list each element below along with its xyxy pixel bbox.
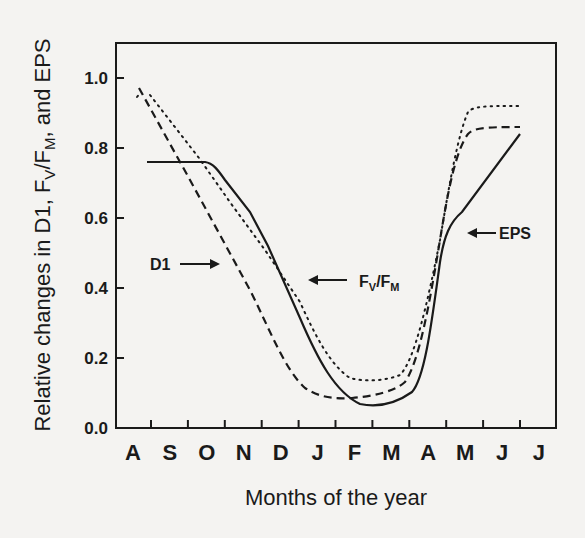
annotation-eps-label: EPS: [499, 225, 531, 242]
x-tick-label: J: [496, 440, 508, 465]
x-axis-title: Months of the year: [245, 485, 427, 510]
x-tick-label: N: [236, 440, 252, 465]
annotation-d1-label: D1: [150, 256, 171, 273]
x-tick-label: F: [348, 440, 361, 465]
y-axis: 0.00.20.40.60.81.0: [84, 69, 124, 438]
y-tick-label: 1.0: [84, 69, 108, 88]
x-axis: ASONDJFMAMJJ: [125, 420, 545, 465]
x-tick-label: D: [273, 440, 289, 465]
x-tick-label: O: [198, 440, 215, 465]
x-tick-label: A: [420, 440, 436, 465]
annotation-eps: EPS: [467, 225, 531, 242]
annotation-fvfm: FV/FM: [308, 273, 400, 293]
arrowhead-right-icon: [210, 259, 220, 269]
x-tick-label: M: [382, 440, 400, 465]
series-fvfm-line: [150, 95, 520, 380]
y-tick-label: 0.2: [84, 349, 108, 368]
y-tick-label: 0.6: [84, 209, 108, 228]
annotation-fvfm-label: FV/FM: [359, 273, 400, 293]
annotation-d1: D1: [150, 256, 220, 273]
plot-frame: [116, 43, 556, 428]
x-tick-label: A: [125, 440, 141, 465]
y-tick-label: 0.0: [84, 419, 108, 438]
x-tick-label: J: [533, 440, 545, 465]
series-eps-line: [147, 134, 520, 405]
x-tick-label: S: [163, 440, 178, 465]
chart: 0.00.20.40.60.81.0 ASONDJFMAMJJ D1 FV/FM…: [0, 0, 585, 538]
y-axis-title: Relative changes in D1, FV/FM, and EPS: [30, 38, 58, 431]
series-d1-line: [139, 88, 520, 398]
x-tick-label: J: [311, 440, 323, 465]
x-tick-label: M: [456, 440, 474, 465]
y-tick-label: 0.4: [84, 279, 108, 298]
y-tick-label: 0.8: [84, 139, 108, 158]
